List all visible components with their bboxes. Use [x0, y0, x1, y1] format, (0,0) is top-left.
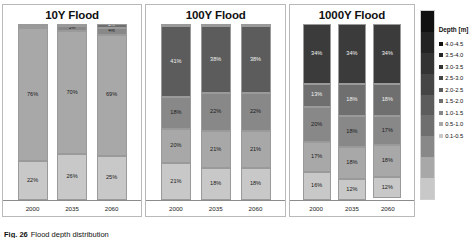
figure-caption: Fig. 26Flood depth distribution	[4, 230, 109, 238]
bar-segment: 22%	[241, 93, 271, 132]
bar-segment-label: 12%	[382, 185, 393, 191]
legend-swatch-icon	[439, 111, 443, 115]
bar-segment: 38%	[241, 26, 271, 93]
stacked-bar: 1%3%70%26%	[57, 24, 87, 200]
bar-segment-label: 12%	[346, 187, 357, 193]
bar-segment-label: 34%	[382, 51, 393, 57]
legend-scale-band	[421, 157, 434, 178]
legend-item: 2.0-2.5	[439, 84, 469, 96]
bar-segment: 22%	[201, 93, 231, 132]
bar-segment-label: 18%	[382, 97, 393, 103]
bar-segment-label: 20%	[170, 143, 181, 149]
bar-segment: 16%	[303, 172, 331, 200]
bar-segment: 34%	[338, 24, 366, 84]
legend-item-label: 0.5-1.0	[445, 121, 463, 127]
figure-number: Fig. 26	[4, 230, 28, 238]
legend-scale-band	[421, 32, 434, 53]
bar-segment: 4%	[97, 28, 127, 35]
legend-items: Depth [m] 4.0-4.53.5-4.03.0-3.52.5-3.02.…	[439, 26, 469, 217]
x-tick-label: 2060	[373, 205, 403, 212]
bar-segment-label: 76%	[27, 92, 38, 98]
bar-segment-label: 41%	[170, 59, 181, 65]
stacked-bar: 34%18%18%18%12%	[338, 24, 366, 200]
bar-segment-label: 3%	[69, 26, 76, 31]
plot-area-1000y: 34%13%20%17%16%34%18%18%18%12%34%18%17%1…	[290, 23, 413, 200]
bar-segment-label: 38%	[250, 57, 261, 63]
legend-item-label: 3.5-4.0	[445, 52, 463, 58]
legend-swatch-icon	[439, 88, 443, 92]
legend-scale-band	[421, 74, 434, 95]
bar-segment: 70%	[57, 31, 87, 154]
bar-segment-label: 34%	[311, 51, 322, 57]
legend-title: Depth [m]	[439, 26, 469, 33]
x-tick-label: 2035	[337, 205, 367, 212]
legend-swatch-icon	[439, 134, 443, 138]
bar-segment-label: 18%	[346, 97, 357, 103]
bar-segment-label: 22%	[210, 109, 221, 115]
x-tick-label: 2000	[301, 205, 331, 212]
figure-flood-depth-distribution: 10Y Flood 1%1%76%22%1%3%70%26%2%4%69%25%…	[0, 0, 471, 238]
legend-item-label: 1.0-1.5	[445, 110, 463, 116]
bar-segment: 18%	[161, 97, 191, 128]
bar-segment-label: 17%	[311, 154, 322, 160]
x-axis-10y: 2000 2035 2060	[3, 200, 141, 216]
legend-scale-band	[421, 115, 434, 136]
bar-segment: 21%	[201, 131, 231, 168]
legend: Depth [m] 4.0-4.53.5-4.03.0-3.52.5-3.02.…	[420, 4, 469, 217]
stacked-bar: 2%4%69%25%	[97, 24, 127, 200]
stacked-bar: 0%38%22%21%18%	[201, 24, 231, 200]
bar-segment-label: 18%	[346, 160, 357, 166]
legend-color-scale	[420, 10, 435, 200]
legend-item: 1.5-2.0	[439, 96, 469, 108]
bar-segment-label: 34%	[346, 51, 357, 57]
legend-swatch-icon	[439, 42, 443, 46]
legend-item-label: 2.0-2.5	[445, 87, 463, 93]
bar-segment: 34%	[373, 24, 401, 84]
x-tick-label: 2060	[241, 205, 271, 212]
bar-segment: 41%	[161, 26, 191, 97]
bar-segment: 17%	[373, 116, 401, 146]
stacked-bar: 1%1%76%22%	[18, 24, 48, 200]
bar-segment-label: 21%	[170, 179, 181, 185]
x-tick-label: 2000	[18, 205, 48, 212]
bar-segment: 26%	[57, 154, 87, 200]
bar-segment-label: 13%	[311, 92, 322, 98]
x-tick-label: 2035	[201, 205, 231, 212]
bar-segment-label: 21%	[210, 147, 221, 153]
legend-scale-band	[421, 136, 434, 157]
bar-segment: 20%	[161, 129, 191, 164]
stacked-bar: 0%38%22%21%18%	[241, 24, 271, 200]
figure-caption-text: Flood depth distribution	[31, 230, 109, 238]
bar-segment-label: 4%	[108, 29, 115, 34]
chart-title-100y: 100Y Flood	[146, 5, 285, 23]
legend-item: 2.5-3.0	[439, 73, 469, 85]
bar-segment: 21%	[161, 163, 191, 200]
bar-segment-label: 18%	[250, 181, 261, 187]
legend-swatch-icon	[439, 76, 443, 80]
chart-panel-100y: 100Y Flood 0%41%18%20%21%0%38%22%21%18%0…	[145, 4, 286, 217]
bar-segment-label: 18%	[170, 110, 181, 116]
bar-segment: 18%	[338, 147, 366, 179]
bar-segment-label: 38%	[210, 57, 221, 63]
stacked-bar: 34%13%20%17%16%	[303, 24, 331, 200]
bar-segment: 13%	[303, 84, 331, 107]
bar-segment: 38%	[201, 26, 231, 93]
x-axis-1000y: 2000 2035 2060	[290, 200, 413, 216]
bar-segment-label: 21%	[250, 147, 261, 153]
legend-scale-band	[421, 178, 434, 199]
legend-item: 0.5-1.0	[439, 119, 469, 131]
legend-swatch-icon	[439, 53, 443, 57]
legend-scale-band	[421, 11, 434, 32]
chart-panels: 10Y Flood 1%1%76%22%1%3%70%26%2%4%69%25%…	[2, 4, 469, 219]
legend-item-label: 4.0-4.5	[445, 41, 463, 47]
plot-area-100y: 0%41%18%20%21%0%38%22%21%18%0%38%22%21%1…	[146, 23, 285, 200]
legend-swatch-icon	[439, 99, 443, 103]
bar-segment-label: 18%	[346, 129, 357, 135]
chart-title-10y: 10Y Flood	[3, 5, 141, 23]
bar-segment: 18%	[373, 145, 401, 177]
bar-segment: 25%	[97, 156, 127, 200]
bar-segment-label: 18%	[382, 158, 393, 164]
legend-item-label: 3.0-3.5	[445, 64, 463, 70]
bar-segment-label: 26%	[66, 174, 77, 180]
bar-segment-label: 18%	[210, 181, 221, 187]
